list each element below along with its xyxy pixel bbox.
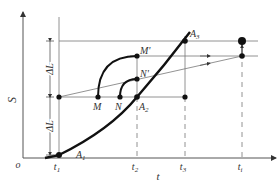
dim-upper-label: ΔL	[44, 63, 55, 76]
label-n: N	[114, 101, 123, 112]
label-a3: A3	[189, 28, 200, 41]
slanted-line	[59, 56, 242, 97]
point-n-dot	[117, 94, 122, 99]
tick-t3: t3	[180, 161, 187, 174]
svg-text:t1: t1	[54, 161, 60, 174]
point-nprime-dot	[134, 76, 139, 81]
x-axis-label: t	[156, 170, 160, 182]
label-m: M	[92, 101, 102, 112]
diagram-canvas: S t o t1 t2 t3 ti A1 A2 A3 M N M' N' ΔL …	[0, 0, 279, 186]
dim-lower-label: ΔL	[44, 120, 55, 133]
tick-t2: t2	[132, 161, 139, 174]
point-a3-dot	[182, 38, 188, 44]
svg-text:ti: ti	[238, 161, 243, 174]
origin-label: o	[16, 159, 21, 170]
label-mprime: M'	[139, 45, 151, 56]
point-ti-mid-dot	[239, 53, 245, 59]
label-nprime: N'	[139, 68, 150, 79]
label-a1: A1	[75, 149, 86, 162]
point-m-dot	[95, 94, 100, 99]
label-a2: A2	[138, 101, 149, 114]
point-ti-top-dot	[238, 37, 246, 45]
point-a1-dot	[56, 152, 62, 158]
point-t3-end-dot	[182, 94, 187, 99]
y-axis-label: S	[5, 97, 19, 103]
arc-m-to-mprime	[98, 56, 137, 97]
tick-ti: ti	[238, 161, 243, 174]
svg-text:t3: t3	[180, 161, 187, 174]
tick-t1: t1	[54, 161, 60, 174]
point-mprime-dot	[134, 53, 139, 58]
svg-text:t2: t2	[132, 161, 139, 174]
point-start-dot	[56, 94, 61, 99]
slanted-arrow	[200, 63, 210, 65]
point-a2-dot	[134, 94, 140, 100]
